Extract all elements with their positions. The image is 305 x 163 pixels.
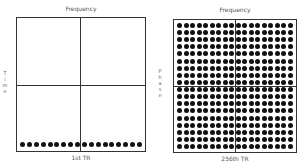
kspace-sample-dot — [268, 80, 273, 85]
kspace-sample-dot — [177, 87, 182, 92]
kspace-sample-dot — [197, 44, 202, 49]
left-bottom-label: 1st TR — [16, 154, 146, 161]
kspace-sample-dot — [177, 130, 182, 135]
kspace-sample-dot — [288, 144, 293, 149]
kspace-sample-dot — [249, 116, 254, 121]
right-kspace-box — [173, 19, 297, 153]
kspace-sample-dot — [197, 73, 202, 78]
kspace-sample-dot — [262, 101, 267, 106]
kspace-sample-dot — [229, 87, 234, 92]
kspace-sample-dot — [109, 142, 114, 147]
kspace-sample-dot — [249, 144, 254, 149]
kspace-sample-dot — [288, 101, 293, 106]
kspace-sample-dot — [275, 130, 280, 135]
kspace-sample-dot — [262, 37, 267, 42]
kspace-sample-dot — [184, 30, 189, 35]
kspace-sample-dot — [275, 59, 280, 64]
kspace-sample-dot — [210, 116, 215, 121]
right-bottom-label: 256th TR — [173, 155, 297, 162]
kspace-sample-dot — [268, 66, 273, 71]
left-kspace-box — [16, 17, 146, 152]
kspace-sample-dot — [210, 23, 215, 28]
kspace-sample-dot — [255, 87, 260, 92]
kspace-sample-dot — [242, 44, 247, 49]
kspace-sample-dot — [275, 23, 280, 28]
kspace-sample-dot — [242, 23, 247, 28]
kspace-sample-dot — [236, 94, 241, 99]
kspace-sample-dot — [229, 94, 234, 99]
kspace-sample-dot — [223, 144, 228, 149]
kspace-sample-dot — [216, 137, 221, 142]
kspace-sample-dot — [255, 44, 260, 49]
kspace-sample-dot — [229, 23, 234, 28]
kspace-sample-dot — [216, 123, 221, 128]
kspace-sample-dot — [229, 137, 234, 142]
kspace-sample-dot — [242, 101, 247, 106]
kspace-sample-dot — [242, 137, 247, 142]
kspace-sample-dot — [288, 37, 293, 42]
kspace-sample-dot — [262, 94, 267, 99]
kspace-sample-dot — [216, 51, 221, 56]
kspace-sample-dot — [262, 44, 267, 49]
kspace-sample-dot — [236, 137, 241, 142]
kspace-sample-dot — [236, 30, 241, 35]
kspace-sample-dot — [223, 44, 228, 49]
kspace-sample-dot — [197, 130, 202, 135]
kspace-sample-dot — [216, 23, 221, 28]
kspace-sample-dot — [249, 44, 254, 49]
kspace-sample-dot — [275, 37, 280, 42]
kspace-sample-dot — [223, 51, 228, 56]
kspace-sample-dot — [137, 142, 142, 147]
kspace-sample-dot — [262, 144, 267, 149]
kspace-sample-dot — [223, 94, 228, 99]
kspace-sample-dot — [190, 37, 195, 42]
kspace-sample-dot — [223, 123, 228, 128]
kspace-sample-dot — [103, 142, 108, 147]
kspace-sample-dot — [275, 80, 280, 85]
kspace-sample-dot — [203, 94, 208, 99]
kspace-sample-dot — [236, 116, 241, 121]
kspace-sample-dot — [268, 73, 273, 78]
kspace-sample-dot — [216, 66, 221, 71]
kspace-sample-dot — [190, 116, 195, 121]
kspace-sample-dot — [216, 59, 221, 64]
kspace-sample-dot — [203, 30, 208, 35]
kspace-sample-dot — [130, 142, 135, 147]
kspace-sample-dot — [249, 73, 254, 78]
kspace-sample-dot — [203, 144, 208, 149]
kspace-sample-dot — [184, 123, 189, 128]
kspace-sample-dot — [216, 80, 221, 85]
kspace-sample-dot — [229, 51, 234, 56]
kspace-sample-dot — [236, 44, 241, 49]
kspace-sample-dot — [268, 30, 273, 35]
kspace-sample-dot — [177, 73, 182, 78]
kspace-sample-dot — [184, 59, 189, 64]
kspace-sample-dot — [210, 108, 215, 113]
kspace-sample-dot — [210, 73, 215, 78]
kspace-sample-dot — [34, 142, 39, 147]
kspace-sample-dot — [288, 59, 293, 64]
kspace-sample-dot — [275, 51, 280, 56]
kspace-sample-dot — [197, 144, 202, 149]
kspace-sample-dot — [229, 116, 234, 121]
kspace-sample-dot — [262, 51, 267, 56]
kspace-sample-dot — [255, 123, 260, 128]
kspace-sample-dot — [184, 51, 189, 56]
kspace-sample-dot — [197, 101, 202, 106]
kspace-sample-dot — [190, 94, 195, 99]
kspace-sample-dot — [249, 137, 254, 142]
kspace-sample-dot — [197, 123, 202, 128]
kspace-sample-dot — [203, 87, 208, 92]
kspace-sample-dot — [288, 87, 293, 92]
kspace-sample-dot — [203, 66, 208, 71]
kspace-sample-dot — [281, 137, 286, 142]
kspace-sample-dot — [177, 116, 182, 121]
kspace-sample-dot — [229, 123, 234, 128]
kspace-sample-dot — [262, 23, 267, 28]
kspace-sample-dot — [255, 51, 260, 56]
kspace-sample-dot — [275, 116, 280, 121]
kspace-sample-dot — [190, 130, 195, 135]
kspace-sample-dot — [177, 101, 182, 106]
vertical-axis-line — [80, 18, 81, 151]
kspace-sample-dot — [262, 108, 267, 113]
